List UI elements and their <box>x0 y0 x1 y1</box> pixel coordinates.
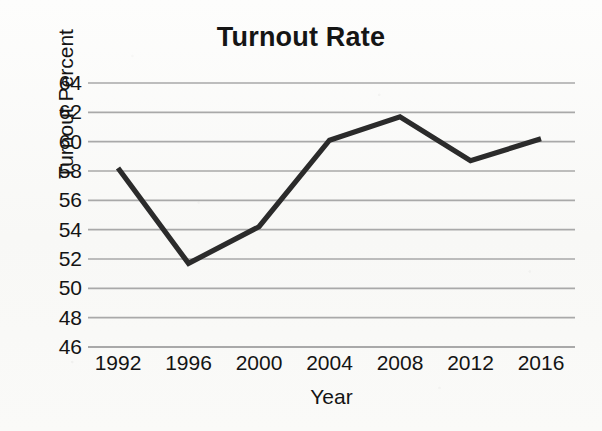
x-tick-label-2012: 2012 <box>447 352 494 373</box>
chart-page: Turnout Rate Turnout Percent 46485052545… <box>0 0 602 431</box>
x-tick-label-2008: 2008 <box>377 352 424 373</box>
x-tick-label-2004: 2004 <box>306 352 353 373</box>
x-axis-tick-labels: 1992199620002004200820122016 <box>88 352 575 382</box>
x-tick-label-2000: 2000 <box>236 352 283 373</box>
gridlines <box>88 83 575 347</box>
turnout-rate-line <box>118 117 541 264</box>
x-tick-label-1992: 1992 <box>95 352 142 373</box>
x-tick-label-2016: 2016 <box>518 352 565 373</box>
x-axis-title: Year <box>88 385 575 409</box>
x-tick-label-1996: 1996 <box>165 352 212 373</box>
